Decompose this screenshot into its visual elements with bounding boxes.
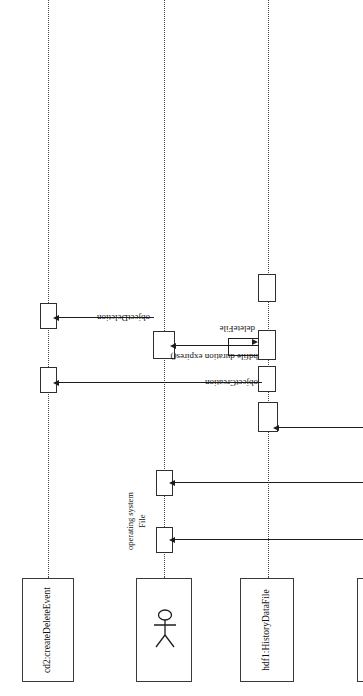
- lifeline-label-operatingSystemFile-line1: operating system: [126, 466, 135, 576]
- sequence-diagram-canvas: cd2:createDeleteEvent operating system F…: [0, 0, 363, 696]
- message-arrowhead-createhistorydatafilemo: [273, 425, 279, 431]
- lifeline-head-historyDataFile[interactable]: hdf1:HistoryDataFile: [240, 578, 294, 682]
- message-label-objectDeletion: objectDeletion: [97, 313, 150, 323]
- message-arrowhead-deleteFile: [170, 343, 176, 349]
- message-line-write-data-2: [173, 482, 363, 483]
- message-arrowhead-write-data-2: [169, 480, 175, 486]
- message-line-deleteFile: [175, 345, 259, 346]
- message-arrowhead-objectDeletion: [53, 315, 59, 321]
- activation-historyDataFile-4: [258, 274, 276, 302]
- message-arrowhead-write-data-1: [169, 537, 175, 543]
- lifeline-head-operatingSystemFile[interactable]: [136, 578, 192, 682]
- message-arrowhead-objectCreation: [53, 380, 59, 386]
- lifeline-label-createDeleteEvent: cd2:createDeleteEvent: [43, 587, 53, 673]
- lifeline-head-currentData2[interactable]: cd2:currentData: [357, 578, 363, 682]
- message-line-createhistorydatafilemo: [277, 427, 363, 428]
- message-label-deleteFile: deleteFile: [220, 324, 256, 334]
- activation-historyDataFile-3: [258, 330, 276, 360]
- lifeline-label-historyDataFile: hdf1:HistoryDataFile: [262, 589, 272, 670]
- message-label-hdfile-duration-expires: hdfile duration expires(): [171, 352, 258, 362]
- lifeline-line-createDeleteEvent: [48, 0, 49, 578]
- actor-icon: [137, 577, 193, 681]
- lifeline-head-createDeleteEvent[interactable]: cd2:createDeleteEvent: [22, 578, 74, 682]
- message-label-objectCreation: objectCreation: [205, 378, 258, 388]
- message-line-write-data-1: [173, 539, 363, 540]
- lifeline-label-operatingSystemFile-line2: File: [138, 466, 147, 576]
- activation-historyDataFile-2: [258, 366, 276, 392]
